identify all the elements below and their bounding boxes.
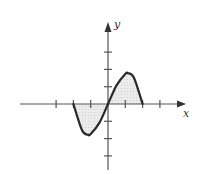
y-axis-arrow-icon (105, 22, 112, 32)
y-axis-label: y (113, 18, 121, 31)
x-axis-label: x (183, 107, 190, 120)
function-graph: x y (0, 0, 198, 175)
